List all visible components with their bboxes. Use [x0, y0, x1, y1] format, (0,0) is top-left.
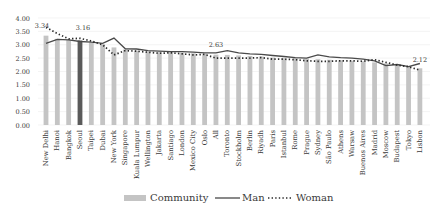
community-bar — [395, 65, 400, 125]
community-bar — [180, 53, 185, 125]
gridlines — [38, 18, 430, 125]
community-bar — [270, 58, 275, 125]
community-bar — [338, 60, 343, 125]
x-tick-label: Seoul — [76, 130, 84, 149]
x-tick-label: Jakarta — [155, 130, 163, 156]
x-tick-label: Bangkok — [65, 129, 73, 160]
community-bar — [78, 40, 83, 125]
community-bar — [157, 52, 162, 125]
x-tick-label: Budapest — [393, 130, 401, 163]
y-axis: 0.000.501.001.502.002.503.003.504.00 — [16, 15, 30, 130]
y-tick-label: 0.50 — [16, 108, 30, 116]
data-label: 3.16 — [76, 24, 90, 32]
x-tick-label: London — [178, 129, 186, 155]
community-bar — [168, 52, 173, 125]
community-bar — [293, 58, 298, 125]
y-tick-label: 3.50 — [16, 28, 30, 36]
x-tick-label: Hanoi — [53, 129, 61, 150]
x-tick-label: Oslo — [201, 130, 209, 145]
community-bar — [66, 40, 71, 125]
community-bar — [236, 55, 241, 125]
x-tick-label: Paris — [269, 129, 277, 147]
community-bar — [372, 62, 377, 125]
x-tick-label: All — [212, 130, 220, 140]
community-bar — [304, 59, 309, 125]
y-tick-label: 2.50 — [16, 55, 30, 63]
community-bar — [112, 47, 117, 125]
x-tick-label: Singapore — [121, 130, 129, 165]
x-tick-label: Wellington — [144, 129, 152, 167]
community-bar — [100, 44, 105, 125]
legend-woman-label: Woman — [296, 192, 334, 203]
x-axis-labels: New DelhiHanoiBangkokSeoulTaipeiDubaiNew… — [42, 129, 424, 179]
community-bar — [406, 67, 411, 125]
x-tick-label: Sydney — [314, 130, 322, 155]
x-tick-label: New York — [110, 129, 118, 163]
x-tick-label: Stockholm — [235, 129, 243, 166]
x-tick-label: Athens — [337, 129, 345, 154]
community-bar — [259, 57, 264, 125]
community-bar — [202, 54, 207, 125]
y-tick-label: 1.00 — [16, 95, 30, 103]
x-tick-label: São Paulo — [325, 130, 333, 164]
community-bar — [123, 50, 128, 125]
data-label: 2.12 — [413, 56, 427, 64]
community-bar — [417, 68, 422, 125]
x-tick-label: Riyadh — [257, 129, 265, 154]
y-tick-label: 3.00 — [16, 41, 30, 49]
x-tick-label: New Delhi — [42, 129, 50, 166]
community-bar — [361, 61, 366, 125]
bar-line-chart: 0.000.501.001.502.002.503.003.504.00 3.3… — [0, 0, 444, 213]
x-tick-label: Berlin — [246, 129, 254, 151]
legend-community-label: Community — [150, 192, 209, 203]
community-bar — [134, 51, 139, 125]
data-label: 3.34 — [35, 22, 49, 30]
x-tick-label: Moscow — [382, 130, 390, 158]
x-tick-label: Buenos Aires — [359, 129, 367, 175]
community-bar — [44, 36, 49, 125]
x-tick-label: Taipei — [87, 129, 95, 151]
community-bar — [350, 61, 355, 125]
x-tick-label: Kuala Lumpur — [133, 129, 141, 179]
x-tick-label: Prague — [303, 130, 311, 155]
legend-community-swatch — [124, 195, 146, 201]
community-bar — [146, 52, 151, 125]
x-tick-label: Madrid — [371, 129, 379, 155]
x-tick-label: Dubai — [99, 129, 107, 150]
chart-container: 0.000.501.001.502.002.503.003.504.00 3.3… — [0, 0, 444, 213]
community-bar — [225, 55, 230, 125]
community-bar — [282, 58, 287, 125]
x-tick-label: Istanbul — [280, 130, 288, 158]
x-tick-label: Lisbon — [416, 129, 424, 153]
community-bar — [384, 63, 389, 125]
x-tick-label: Mexico City — [189, 130, 197, 171]
y-tick-label: 4.00 — [16, 15, 30, 23]
x-tick-label: Rome — [291, 130, 299, 150]
community-bar — [327, 60, 332, 125]
community-bar — [89, 43, 94, 125]
community-bar — [248, 56, 253, 125]
y-tick-label: 2.00 — [16, 68, 30, 76]
x-tick-label: Santiago — [167, 130, 175, 161]
data-label: 2.63 — [209, 41, 223, 49]
x-tick-label: Warsaw — [348, 130, 356, 157]
community-bar — [191, 53, 196, 125]
community-bar — [214, 55, 219, 125]
x-tick-label: Toronto — [223, 130, 231, 157]
legend: Community Man Woman — [124, 192, 334, 203]
community-bar — [316, 59, 321, 125]
legend-man-label: Man — [242, 192, 265, 203]
community-bar — [55, 39, 60, 125]
y-tick-label: 1.50 — [16, 81, 30, 89]
y-tick-label: 0.00 — [16, 122, 30, 130]
x-tick-label: Tokyo — [405, 130, 413, 150]
